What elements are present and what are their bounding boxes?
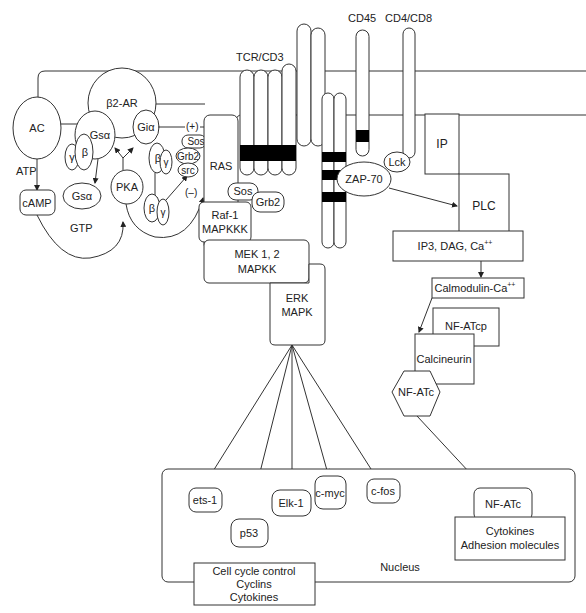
plc-label: PLC [472, 199, 496, 213]
b2ar-label: β2-AR [106, 97, 137, 109]
mek-node [204, 240, 309, 283]
p53-label: p53 [240, 527, 258, 539]
sos-right-label: Sos [234, 185, 253, 197]
erk-label-2: MAPK [281, 306, 313, 318]
grb2-left-label: Grb2 [177, 151, 200, 162]
camp-label: cAMP [22, 197, 51, 209]
gs-alpha-free-label: Gsα [72, 190, 93, 202]
cfos-label: c-fos [371, 485, 395, 497]
second-messengers-label: IP3, DAG, Ca++ [418, 239, 493, 252]
mek-label-2: MAPKK [238, 263, 277, 275]
lck-label: Lck [388, 156, 406, 168]
elk1-label: Elk-1 [278, 497, 303, 509]
nucleus-label: Nucleus [380, 561, 420, 573]
zap70-label: ZAP-70 [345, 173, 382, 185]
plus-label: (+) [186, 121, 199, 132]
ras-label: RAS [210, 160, 233, 172]
raf1-label-1: Raf-1 [212, 209, 239, 221]
cmyc-label: c-myc [315, 487, 345, 499]
gi-beta-free-label: β [149, 202, 155, 214]
signaling-diagram: TCR/CD3 CD45 CD4/CD8 β2-AR AC ATP cAMP G… [0, 0, 586, 613]
cd45-receptor [356, 30, 369, 156]
ac-label: AC [29, 122, 44, 134]
cd45-label: CD45 [348, 12, 376, 24]
output-cytokines-left: Cytokines [230, 591, 279, 603]
src-label: src [181, 165, 194, 176]
gi-gamma-label: γ [164, 157, 169, 168]
output-cell-cycle: Cell cycle control [212, 565, 295, 577]
output-cytokines-right: Cytokines [486, 525, 535, 537]
cd4-cd8-label: CD4/CD8 [385, 12, 432, 24]
nfatc-nucleus-label: NF-ATc [485, 498, 521, 510]
nfatcp-label: NF-ATcp [445, 320, 487, 332]
gs-alpha-label: Gsα [90, 129, 111, 141]
minus-label: (–) [185, 187, 197, 198]
nfatc-hexagon-label: NF-ATc [398, 386, 434, 398]
cd4-cd8-receptor [403, 28, 415, 158]
output-adhesion: Adhesion molecules [461, 539, 560, 551]
gtp-label: GTP [70, 222, 93, 234]
ets1-label: ets-1 [193, 494, 217, 506]
output-cyclins: Cyclins [236, 578, 272, 590]
calmodulin-label: Calmodulin-Ca++ [435, 281, 516, 294]
grb2-right-label: Grb2 [256, 196, 280, 208]
erk-label-1: ERK [286, 292, 309, 304]
gi-gamma-free-label: γ [161, 207, 166, 218]
pka-label: PKA [116, 181, 139, 193]
gs-beta-label: β [82, 146, 88, 158]
calcineurin-label: Calcineurin [416, 353, 471, 365]
atp-label: ATP [16, 165, 37, 177]
raf1-node [199, 202, 251, 242]
gi-alpha-label: Giα [137, 121, 155, 133]
ip-label: IP [436, 137, 447, 151]
gs-gamma-label: γ [69, 151, 75, 163]
mek-label-1: MEK 1, 2 [234, 248, 279, 260]
raf1-label-2: MAPKKK [202, 223, 249, 235]
tcr-cd3-label: TCR/CD3 [236, 51, 284, 63]
sos-left-label: Sos [187, 136, 204, 147]
